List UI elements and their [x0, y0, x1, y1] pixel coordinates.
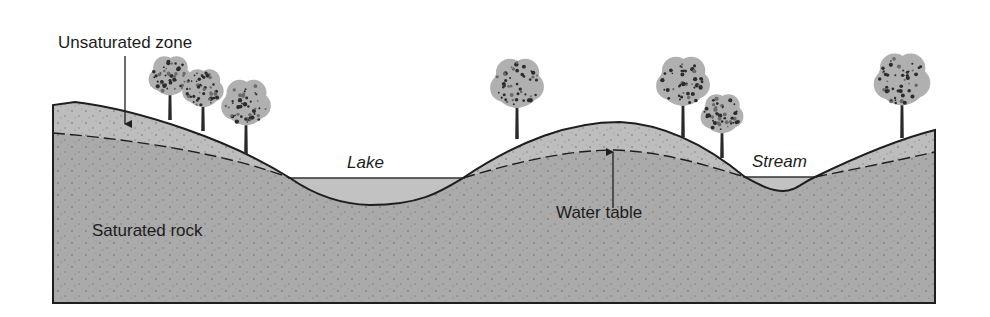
tree-icon [490, 59, 544, 139]
tree-icon [874, 54, 931, 138]
tree-icon [701, 94, 744, 158]
tree-icon [221, 80, 271, 154]
tree-icon [182, 69, 223, 131]
saturated-rock-label: Saturated rock [92, 222, 203, 239]
water-table-label: Water table [556, 204, 642, 221]
unsaturated-zone-label: Unsaturated zone [58, 34, 192, 51]
stream-label: Stream [752, 153, 807, 170]
ground-texture [53, 102, 935, 303]
lake-label: Lake [347, 154, 384, 171]
tree-icon [656, 57, 710, 137]
